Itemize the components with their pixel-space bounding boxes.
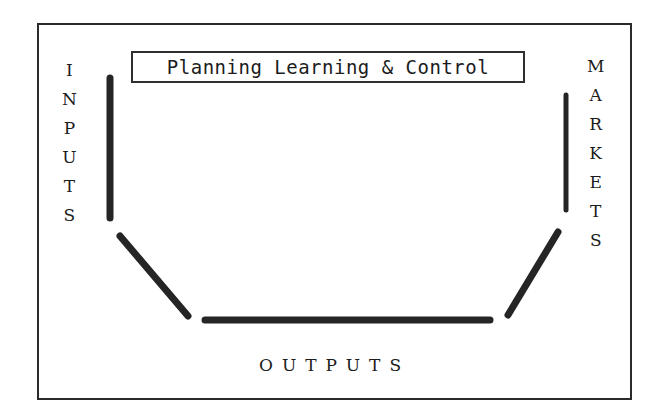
title-box: Planning Learning & Control [131, 51, 525, 83]
inputs-letter: S [64, 201, 76, 230]
markets-letter: T [590, 197, 601, 226]
label-inputs: I N P U T S [62, 56, 77, 230]
markets-letter: R [589, 110, 602, 139]
inputs-letter: T [64, 172, 75, 201]
inputs-letter: N [62, 85, 77, 114]
markets-letter: S [590, 226, 602, 255]
inputs-letter: U [62, 143, 76, 172]
page-title: Planning Learning & Control [167, 58, 489, 77]
markets-letter: E [590, 168, 602, 197]
inputs-letter: I [66, 56, 73, 85]
figure-canvas: Planning Learning & Control I N P U T S … [0, 0, 660, 418]
markets-letter: M [587, 52, 604, 81]
markets-letter: A [590, 81, 602, 110]
inputs-letter: P [64, 114, 75, 143]
label-outputs: OUTPUTS [0, 355, 660, 375]
markets-letter: K [589, 139, 602, 168]
label-markets: M A R K E T S [587, 52, 604, 255]
